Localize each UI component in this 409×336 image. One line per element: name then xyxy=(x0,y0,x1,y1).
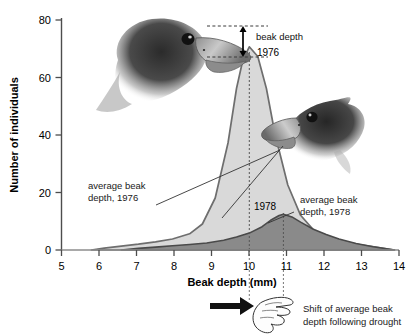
x-axis-title: Beak depth (mm) xyxy=(187,276,277,288)
annotation-1976-line2: depth, 1976 xyxy=(88,192,138,203)
x-tick-13: 13 xyxy=(355,260,367,272)
y-axis-title: Number of individuals xyxy=(8,77,20,193)
caption-line1: Shift of average beak xyxy=(303,303,393,314)
x-tick-11: 11 xyxy=(281,260,292,272)
annotation-1978-line2: depth, 1978 xyxy=(300,206,350,217)
y-axis: 80 60 40 20 0 Number of individuals xyxy=(8,14,62,256)
x-tick-14: 14 xyxy=(393,260,405,272)
caption-line2: depth following drought xyxy=(303,316,402,327)
right-arrow-icon xyxy=(210,297,254,315)
double-arrow-vertical-icon xyxy=(240,26,247,57)
y-tick-60: 60 xyxy=(39,72,51,84)
annotation-1978-line1: average beak xyxy=(300,194,358,205)
x-tick-5: 5 xyxy=(58,260,64,272)
y-tick-0: 0 xyxy=(45,244,51,256)
chart-svg: 80 60 40 20 0 Number of individuals 5 6 … xyxy=(0,0,409,336)
x-tick-10: 10 xyxy=(243,260,255,272)
y-tick-40: 40 xyxy=(39,129,51,141)
x-tick-7: 7 xyxy=(133,260,139,272)
x-tick-9: 9 xyxy=(208,260,214,272)
finch-head-icon-large xyxy=(96,18,251,112)
x-tick-6: 6 xyxy=(96,260,102,272)
beak-depth-distribution-figure: 80 60 40 20 0 Number of individuals 5 6 … xyxy=(0,0,409,336)
x-tick-12: 12 xyxy=(318,260,330,272)
y-tick-20: 20 xyxy=(39,187,51,199)
x-axis: 5 6 7 8 9 10 11 12 13 14 Beak depth (mm) xyxy=(58,250,405,288)
beak-depth-year-1976: 1976 xyxy=(257,47,280,58)
annotation-1976-line1: average beak xyxy=(88,180,146,191)
y-tick-80: 80 xyxy=(39,14,51,26)
pointing-hand-icon xyxy=(253,297,293,332)
peak-label-1978: 1978 xyxy=(254,201,277,212)
beak-depth-label: beak depth xyxy=(256,31,303,42)
x-tick-8: 8 xyxy=(171,260,177,272)
